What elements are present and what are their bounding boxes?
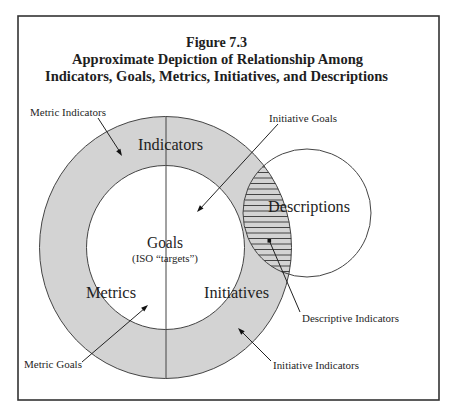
figure-title-line-1: Approximate Depiction of Relationship Am… xyxy=(72,52,363,67)
figure-number: Figure 7.3 xyxy=(186,35,247,50)
goals-note-label: (ISO “targets”) xyxy=(132,252,198,265)
metric-indicators-label: Metric Indicators xyxy=(30,107,106,118)
initiative-goals-label: Initiative Goals xyxy=(269,113,337,124)
indicators-label: Indicators xyxy=(138,136,203,153)
descriptions-label: Descriptions xyxy=(268,198,350,216)
pointer-dot-icon xyxy=(268,239,272,243)
descriptive-indicators-label: Descriptive Indicators xyxy=(302,313,399,324)
figure-title-line-2: Indicators, Goals, Metrics, Initiatives,… xyxy=(45,69,389,84)
figure-7-3-diagram: Figure 7.3 Approximate Depiction of Rela… xyxy=(0,0,455,418)
initiatives-label: Initiatives xyxy=(204,284,269,301)
initiative-indicators-label: Initiative Indicators xyxy=(273,360,359,371)
metric-goals-label: Metric Goals xyxy=(24,359,82,370)
metrics-label: Metrics xyxy=(86,284,136,301)
goals-label: Goals xyxy=(147,234,183,251)
